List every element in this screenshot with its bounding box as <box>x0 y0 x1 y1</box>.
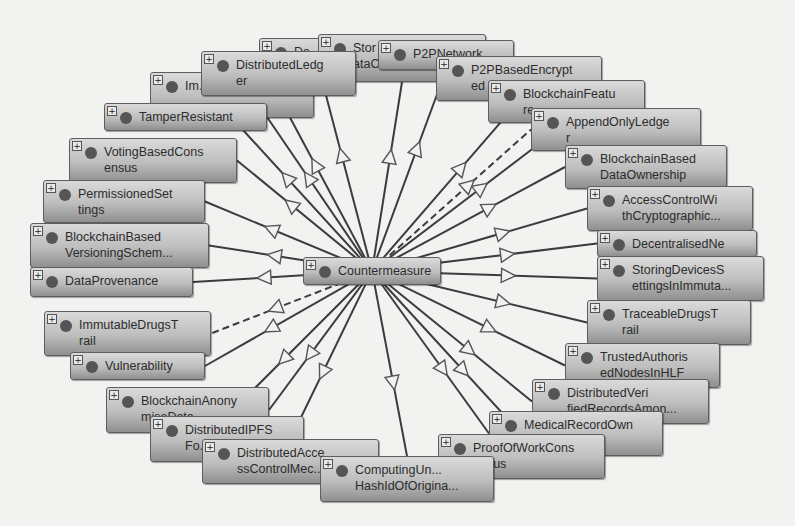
node-distributed-ledger[interactable]: +DistributedLedg er <box>201 51 356 96</box>
class-dot-icon <box>217 60 229 72</box>
ontology-graph-canvas[interactable]: +Da...+Stor ataC...+P2PNetwork+Im...+Dis… <box>0 0 795 526</box>
class-dot-icon <box>452 65 464 77</box>
expand-plus-icon[interactable]: + <box>204 54 214 64</box>
arrowhead-icon <box>257 270 271 284</box>
expand-plus-icon[interactable]: + <box>153 419 163 429</box>
expand-plus-icon[interactable]: + <box>590 189 600 199</box>
expand-plus-icon[interactable]: + <box>47 314 57 324</box>
expand-plus-icon[interactable]: + <box>306 260 316 270</box>
class-dot-icon <box>505 420 517 432</box>
class-dot-icon <box>504 89 516 101</box>
class-dot-icon <box>394 49 406 61</box>
node-label: BlockchainBased VersioningSchem... <box>65 229 204 261</box>
expand-plus-icon[interactable]: + <box>568 346 578 356</box>
node-label: DecentralisedNe <box>632 236 752 252</box>
expand-plus-icon[interactable]: + <box>568 148 578 158</box>
expand-plus-icon[interactable]: + <box>72 141 82 151</box>
node-label: AppendOnlyLedge r <box>566 114 696 146</box>
arrowhead-icon <box>285 200 300 214</box>
class-dot-icon <box>46 232 58 244</box>
expand-plus-icon[interactable]: + <box>441 437 451 447</box>
node-decentralised[interactable]: +DecentralisedNe <box>597 230 757 257</box>
arrowhead-icon <box>494 228 509 241</box>
arrowhead-icon <box>495 294 510 308</box>
arrowhead-icon <box>385 375 399 390</box>
arrowhead-icon <box>433 360 447 375</box>
node-label: DataProvenance <box>65 273 188 289</box>
expand-plus-icon[interactable]: + <box>153 75 163 85</box>
expand-plus-icon[interactable]: + <box>600 259 610 269</box>
expand-plus-icon[interactable]: + <box>491 83 501 93</box>
node-countermeasure[interactable]: + Countermeasure <box>303 257 441 285</box>
expand-plus-icon[interactable]: + <box>107 106 117 116</box>
node-vulnerability[interactable]: +Vulnerability <box>70 352 205 380</box>
expand-plus-icon[interactable]: + <box>535 382 545 392</box>
node-data-provenance[interactable]: +DataProvenance <box>30 267 193 297</box>
edge-n-medical-record <box>379 281 489 434</box>
node-label: TraceableDrugsT rail <box>622 306 746 338</box>
node-label: PermissionedSet tings <box>78 186 200 218</box>
class-dot-icon <box>218 448 230 460</box>
class-dot-icon <box>336 465 348 477</box>
expand-plus-icon[interactable]: + <box>381 43 391 53</box>
arrowhead-icon <box>306 345 320 360</box>
edge-n-blockchain-anonymise <box>269 279 366 410</box>
class-dot-icon <box>613 265 625 277</box>
node-label: BlockchainBased DataOwnership <box>600 151 722 183</box>
arrowhead-icon <box>337 148 351 163</box>
node-permissioned[interactable]: +PermissionedSet tings <box>43 180 205 223</box>
edge-n-computing-hash <box>374 282 407 456</box>
expand-plus-icon[interactable]: + <box>321 37 331 47</box>
class-dot-icon <box>581 352 593 364</box>
expand-plus-icon[interactable]: + <box>205 442 215 452</box>
expand-plus-icon[interactable]: + <box>33 226 43 236</box>
node-label: TamperResistant <box>139 109 262 125</box>
class-dot-icon <box>166 81 178 93</box>
node-data-ownership[interactable]: +BlockchainBased DataOwnership <box>565 145 727 189</box>
expand-plus-icon[interactable]: + <box>590 303 600 313</box>
class-dot-icon <box>547 117 559 129</box>
expand-plus-icon[interactable]: + <box>600 233 610 243</box>
arrowhead-icon <box>265 225 281 238</box>
arrowhead-icon <box>472 183 487 197</box>
node-versioning[interactable]: +BlockchainBased VersioningSchem... <box>30 223 209 268</box>
expand-plus-icon[interactable]: + <box>46 183 56 193</box>
edge-n-append-only-ledger <box>382 130 531 263</box>
expand-plus-icon[interactable]: + <box>439 59 449 69</box>
class-dot-icon <box>120 112 132 124</box>
expand-plus-icon[interactable]: + <box>534 111 544 121</box>
edge-n-distributed-verified <box>382 279 532 402</box>
class-dot-icon <box>603 309 615 321</box>
expand-plus-icon[interactable]: + <box>33 270 43 280</box>
node-storing-devices[interactable]: +StoringDevicesS ettingsInImmuta... <box>597 256 764 301</box>
expand-plus-icon[interactable]: + <box>73 355 83 365</box>
arrowhead-icon <box>480 319 496 332</box>
arrowhead-icon <box>408 142 421 158</box>
arrowhead-icon <box>382 150 396 165</box>
node-label: TrustedAuthoris edNodesInHLF <box>600 349 715 381</box>
class-dot-icon <box>166 425 178 437</box>
node-access-crypto[interactable]: +AccessControlWi thCryptographic... <box>587 186 753 231</box>
expand-plus-icon[interactable]: + <box>323 459 333 469</box>
expand-plus-icon[interactable]: + <box>262 41 272 51</box>
node-traceable-drugs[interactable]: +TraceableDrugsT rail <box>587 300 751 345</box>
node-label: VotingBasedCons ensus <box>104 144 232 176</box>
node-immutable-drugs[interactable]: +ImmutableDrugsT rail <box>44 311 211 356</box>
arrowhead-icon <box>267 250 282 264</box>
arrowhead-icon <box>459 180 474 195</box>
node-tamper-resistant[interactable]: +TamperResistant <box>104 103 267 131</box>
arrowhead-icon <box>501 268 515 282</box>
node-computing-hash[interactable]: +ComputingUn... HashIdOfOrigina... <box>320 456 494 502</box>
class-dot-icon <box>122 396 134 408</box>
class-dot-icon <box>85 147 97 159</box>
expand-plus-icon[interactable]: + <box>492 414 502 424</box>
arrowhead-icon <box>500 248 515 262</box>
class-dot-icon <box>46 276 58 288</box>
class-dot-icon <box>613 239 625 251</box>
expand-plus-icon[interactable]: + <box>109 390 119 400</box>
node-voting-consensus[interactable]: +VotingBasedCons ensus <box>69 138 237 183</box>
class-dot-icon <box>581 154 593 166</box>
class-dot-icon <box>59 189 71 201</box>
arrowhead-icon <box>460 341 475 355</box>
class-dot-icon <box>548 388 560 400</box>
